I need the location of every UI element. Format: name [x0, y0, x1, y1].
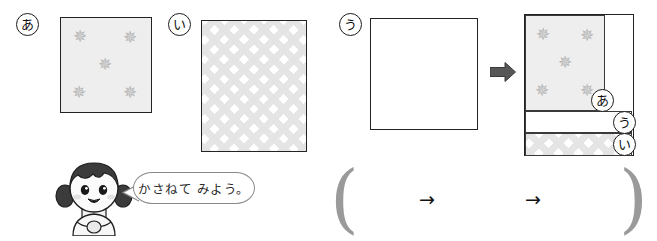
star-icon: ✵	[73, 28, 87, 45]
star-icon: ✵	[558, 54, 572, 71]
star-icon: ✵	[535, 82, 549, 99]
sheet-a-stars: ✵ ✵ ✵ ✵ ✵	[60, 17, 152, 113]
sheet-i-lattice	[201, 20, 307, 152]
sheet-label-i: い	[168, 13, 191, 36]
sheet-u-plain	[370, 18, 478, 130]
composite-label-u: う	[613, 111, 636, 134]
speech-bubble-text: かさねて みよう。	[138, 179, 249, 198]
star-icon: ✵	[98, 56, 112, 73]
worksheet-canvas: あ ✵ ✵ ✵ ✵ ✵ い う ✵ ✵ ✵ ✵ ✵ あ う い	[0, 0, 657, 241]
answer-arrow-2: →	[525, 190, 541, 209]
answer-open-paren: (	[330, 161, 359, 235]
speech-bubble: かさねて みよう。	[133, 172, 255, 204]
star-icon: ✵	[536, 26, 550, 43]
answer-arrow-1: →	[419, 190, 435, 209]
answer-close-paren: )	[619, 161, 648, 235]
star-icon: ✵	[123, 29, 137, 46]
composite-label-i: い	[613, 133, 636, 156]
sheet-label-u: う	[339, 13, 362, 36]
block-arrow-icon	[490, 62, 516, 82]
star-icon: ✵	[123, 84, 137, 101]
star-icon: ✵	[72, 84, 86, 101]
sheet-label-a: あ	[16, 13, 39, 36]
star-icon: ✵	[580, 27, 594, 44]
composite-label-a: あ	[591, 89, 614, 112]
